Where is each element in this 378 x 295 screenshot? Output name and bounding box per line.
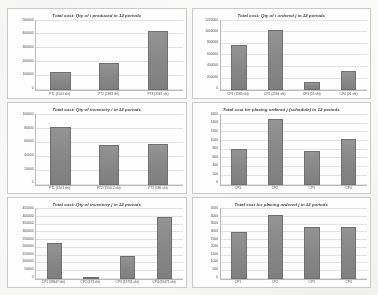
y-axis-tick-label: 1600: [211, 113, 218, 116]
chart-title: Total cost: Qty of inventory i in 12 per…: [11, 106, 183, 114]
y-axis-tick-label: 400000: [207, 64, 218, 67]
chart-card: Total cost: Qty of inventory i in 12 per…: [7, 102, 187, 193]
y-axis-tick-label: 800000: [207, 41, 218, 44]
chart-card: Total cost for placing ordered j (schedu…: [192, 102, 372, 193]
y-axis: 100000800006000040000200000: [11, 114, 35, 186]
chart-title: Total cost: Qty of i produced in 12 peri…: [11, 12, 183, 20]
bar: [50, 127, 71, 185]
plot-area: [220, 20, 368, 92]
x-axis: CP1CP2CP3CP4: [196, 186, 368, 191]
y-axis-tick-label: 100000: [22, 260, 33, 263]
chart-title: Total cost for placing ordered j (schedu…: [196, 106, 368, 114]
bar: [268, 215, 283, 279]
bar: [231, 45, 246, 90]
bar-slot: [330, 208, 367, 279]
bar: [341, 71, 356, 90]
x-axis-tick-label: CP1 (1589 sht): [220, 91, 257, 96]
bar-slot: [134, 114, 183, 185]
x-axis: PT1 (1203 sht)PT2 (1550.2 sht)PT3 (586 s…: [11, 186, 183, 191]
x-axis-tick-label: CP4: [330, 280, 367, 285]
bar-slot: [294, 20, 331, 91]
y-axis-tick-label: 200000: [22, 60, 33, 63]
y-axis-tick-label: 600000: [207, 53, 218, 56]
bar: [47, 243, 62, 279]
x-axis-tick-label: CP1: [220, 280, 257, 285]
bar: [268, 30, 283, 91]
charts-grid: Total cost: Qty of i produced in 12 peri…: [0, 0, 378, 295]
bar-series: [36, 20, 183, 91]
y-axis-tick-label: 2000: [211, 245, 218, 248]
bar-series: [221, 208, 368, 279]
bar: [304, 82, 319, 90]
plot-wrapper: 450040003500300025002000150010005000: [196, 208, 368, 280]
y-axis-tick-label: 600: [212, 156, 218, 159]
x-axis: CP1 (1589 sht)CP2 (2594 sht)CP3 (55 sht)…: [196, 91, 368, 96]
bar: [99, 63, 120, 90]
y-axis: 5000004000003000002000001000000: [11, 20, 35, 92]
y-axis-tick-label: 1400: [211, 121, 218, 124]
chart-card: Total cost: Qty of inventory j in 12 per…: [7, 197, 187, 288]
y-axis-tick-label: 4500: [211, 207, 218, 210]
y-axis-tick-label: 300000: [22, 230, 33, 233]
x-axis-tick-label: PT3 (586 sht): [133, 186, 182, 191]
document-page: Total cost: Qty of i produced in 12 peri…: [0, 0, 378, 295]
x-axis-tick-label: CP4: [330, 186, 367, 191]
x-axis-tick-label: PT1 (1203 sht): [35, 186, 84, 191]
y-axis-tick-label: 2500: [211, 238, 218, 241]
y-axis-tick-label: 0: [216, 181, 218, 184]
x-axis-tick-label: CP2 (2594 sht): [256, 91, 293, 96]
bar: [304, 151, 319, 185]
y-axis-tick-label: 100000: [22, 113, 33, 116]
bar-slot: [73, 208, 110, 279]
bar: [231, 232, 246, 279]
y-axis: 120000010000008000006000004000002000000: [196, 20, 220, 92]
plot-area: [220, 114, 368, 186]
x-axis-tick-label: CP3 (55 sht): [293, 91, 330, 96]
y-axis-tick-label: 1000: [211, 260, 218, 263]
bar-slot: [330, 20, 367, 91]
plot-wrapper: 100000800006000040000200000: [11, 114, 183, 186]
y-axis: 450040003500300025002000150010005000: [196, 208, 220, 280]
plot-area: [35, 114, 183, 186]
bar: [148, 31, 169, 90]
bar-slot: [294, 208, 331, 279]
bar: [83, 277, 98, 279]
y-axis-tick-label: 0: [216, 87, 218, 90]
bar-series: [221, 114, 368, 185]
y-axis-tick-label: 200: [212, 173, 218, 176]
x-axis-tick-label: CP4 (93471 sht): [146, 280, 183, 285]
y-axis-tick-label: 1000: [211, 139, 218, 142]
bar: [99, 145, 120, 185]
x-axis-tick-label: CP4 (26 sht): [330, 91, 367, 96]
bar-slot: [36, 208, 73, 279]
y-axis-tick-label: 20000: [24, 168, 33, 171]
plot-wrapper: 5000004000003000002000001000000: [11, 20, 183, 92]
bar: [268, 119, 283, 185]
y-axis-tick-label: 100000: [22, 73, 33, 76]
bar: [120, 256, 135, 279]
x-axis-tick-label: CP2: [256, 280, 293, 285]
bar-slot: [85, 20, 134, 91]
y-axis-tick-label: 200000: [207, 76, 218, 79]
y-axis-tick-label: 350000: [22, 222, 33, 225]
bar: [50, 72, 71, 90]
x-axis-tick-label: CP3 (19731 sht): [109, 280, 146, 285]
y-axis: 16001400120010008006004002000: [196, 114, 220, 186]
x-axis-tick-label: CP1: [220, 186, 257, 191]
bar-slot: [257, 20, 294, 91]
y-axis-tick-label: 1200: [211, 130, 218, 133]
x-axis-tick-label: CP2: [256, 186, 293, 191]
y-axis-tick-label: 40000: [24, 154, 33, 157]
y-axis-tick-label: 0: [32, 87, 34, 90]
chart-card: Total cost: Qty of i produced in 12 peri…: [7, 8, 187, 99]
bar-slot: [330, 114, 367, 185]
bar: [231, 149, 246, 184]
bar: [341, 227, 356, 279]
x-axis-tick-label: CP1 (39647 sht): [35, 280, 72, 285]
y-axis-tick-label: 450000: [22, 207, 33, 210]
y-axis: 4500004000003500003000002500002000001500…: [11, 208, 35, 280]
bar-slot: [221, 20, 258, 91]
bar-slot: [146, 208, 183, 279]
y-axis-tick-label: 1000000: [205, 30, 218, 33]
bar-slot: [134, 20, 183, 91]
